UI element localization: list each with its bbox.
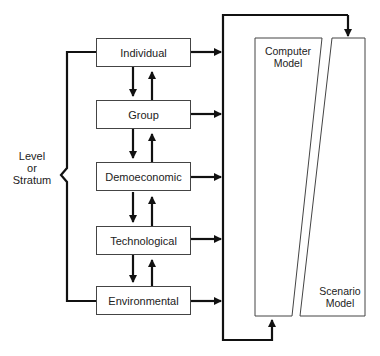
scenario-model-line1: Scenario — [310, 285, 370, 297]
computer-model-line1: Computer — [258, 45, 318, 57]
level-label: Technological — [110, 235, 177, 247]
side-label-line3: Stratum — [12, 174, 52, 186]
level-or-stratum-label: Level or Stratum — [12, 150, 52, 186]
level-label: Individual — [120, 47, 166, 59]
level-label: Environmental — [108, 295, 178, 307]
side-label-line2: or — [12, 162, 52, 174]
level-box-individual: Individual — [96, 38, 191, 67]
level-label: Demoeconomic — [105, 171, 181, 183]
level-box-demoeconomic: Demoeconomic — [96, 162, 191, 191]
side-label-line1: Level — [12, 150, 52, 162]
scenario-model-line2: Model — [310, 297, 370, 309]
level-box-environmental: Environmental — [96, 286, 191, 315]
level-label: Group — [128, 109, 159, 121]
computer-model-line2: Model — [258, 57, 318, 69]
level-box-technological: Technological — [96, 226, 191, 255]
computer-model-label: Computer Model — [258, 45, 318, 69]
level-bracket — [61, 52, 96, 301]
level-box-group: Group — [96, 100, 191, 129]
scenario-model-label: Scenario Model — [310, 285, 370, 309]
output-arrows — [191, 52, 221, 301]
